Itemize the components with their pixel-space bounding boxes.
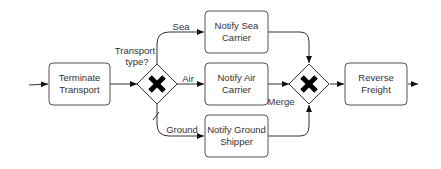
task-label: Notify Ground bbox=[207, 124, 266, 135]
gateway-label: type? bbox=[125, 56, 148, 67]
task-reverse-freight[interactable]: Reverse Freight bbox=[345, 63, 407, 105]
bpmn-diagram: Terminate Transport Notify Sea Carrier N… bbox=[0, 0, 441, 169]
task-label: Notify Air bbox=[217, 72, 255, 83]
task-label: Shipper bbox=[220, 136, 253, 147]
edge-ground-merge bbox=[268, 105, 309, 136]
task-label: Transport bbox=[59, 84, 100, 95]
edge-label-sea: Sea bbox=[173, 21, 191, 32]
task-notify-sea-carrier[interactable]: Notify Sea Carrier bbox=[205, 11, 268, 53]
gateway-label: Transport bbox=[115, 45, 156, 56]
start-edge bbox=[29, 84, 48, 85]
default-flow-slash bbox=[153, 112, 159, 120]
task-label: Carrier bbox=[222, 84, 251, 95]
task-label: Reverse bbox=[358, 72, 393, 83]
task-terminate-transport[interactable]: Terminate Transport bbox=[49, 63, 110, 105]
task-label: Carrier bbox=[222, 32, 251, 43]
task-label: Freight bbox=[361, 84, 391, 95]
gateway-merge[interactable] bbox=[289, 64, 329, 104]
task-notify-air-carrier[interactable]: Notify Air Carrier bbox=[205, 63, 268, 105]
task-label: Terminate bbox=[59, 72, 101, 83]
edge-split-sea bbox=[157, 32, 204, 64]
task-label: Notify Sea bbox=[215, 20, 260, 31]
gateway-label: Merge bbox=[268, 96, 295, 107]
edge-sea-merge bbox=[268, 32, 309, 63]
task-notify-ground-shipper[interactable]: Notify Ground Shipper bbox=[205, 115, 268, 157]
gateway-split[interactable] bbox=[137, 64, 177, 104]
edge-label-ground: Ground bbox=[166, 124, 198, 135]
edge-label-air: Air bbox=[182, 73, 194, 84]
